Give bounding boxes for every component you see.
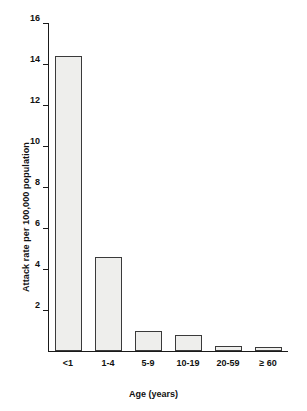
y-axis-tick-mark [43, 269, 48, 270]
y-axis-tick-label: 12 [6, 96, 40, 105]
y-axis-tick-mark [43, 146, 48, 147]
y-axis-tick-label: 10 [6, 137, 40, 146]
y-axis-tick-mark [43, 23, 48, 24]
y-axis-tick-mark [43, 64, 48, 65]
bar [95, 257, 122, 351]
plot-area: 246810121416 <11-45-910-1920-59≥ 60 [48, 20, 288, 351]
bar [55, 56, 82, 351]
y-axis-tick-label: 6 [6, 219, 40, 228]
bar [175, 335, 202, 351]
y-axis-tick-label: 2 [6, 301, 40, 310]
bar [215, 346, 242, 351]
y-axis-tick-mark [43, 187, 48, 188]
y-axis-tick-mark [43, 310, 48, 311]
y-axis-tick-mark [43, 105, 48, 106]
y-axis-tick-label: 4 [6, 260, 40, 269]
x-axis-tick-label: ≥ 60 [238, 358, 298, 368]
x-axis-line [48, 351, 288, 352]
y-axis-tick-label: 16 [6, 14, 40, 23]
y-axis-tick-mark [43, 228, 48, 229]
bar-chart-figure: Attack rate per 100,000 population 24681… [0, 0, 307, 411]
y-axis-tick-label: 8 [6, 178, 40, 187]
y-axis-tick-label: 14 [6, 55, 40, 64]
bar [255, 347, 282, 351]
y-axis-line [48, 23, 49, 351]
bar [135, 331, 162, 352]
x-axis-title: Age (years) [0, 389, 307, 399]
